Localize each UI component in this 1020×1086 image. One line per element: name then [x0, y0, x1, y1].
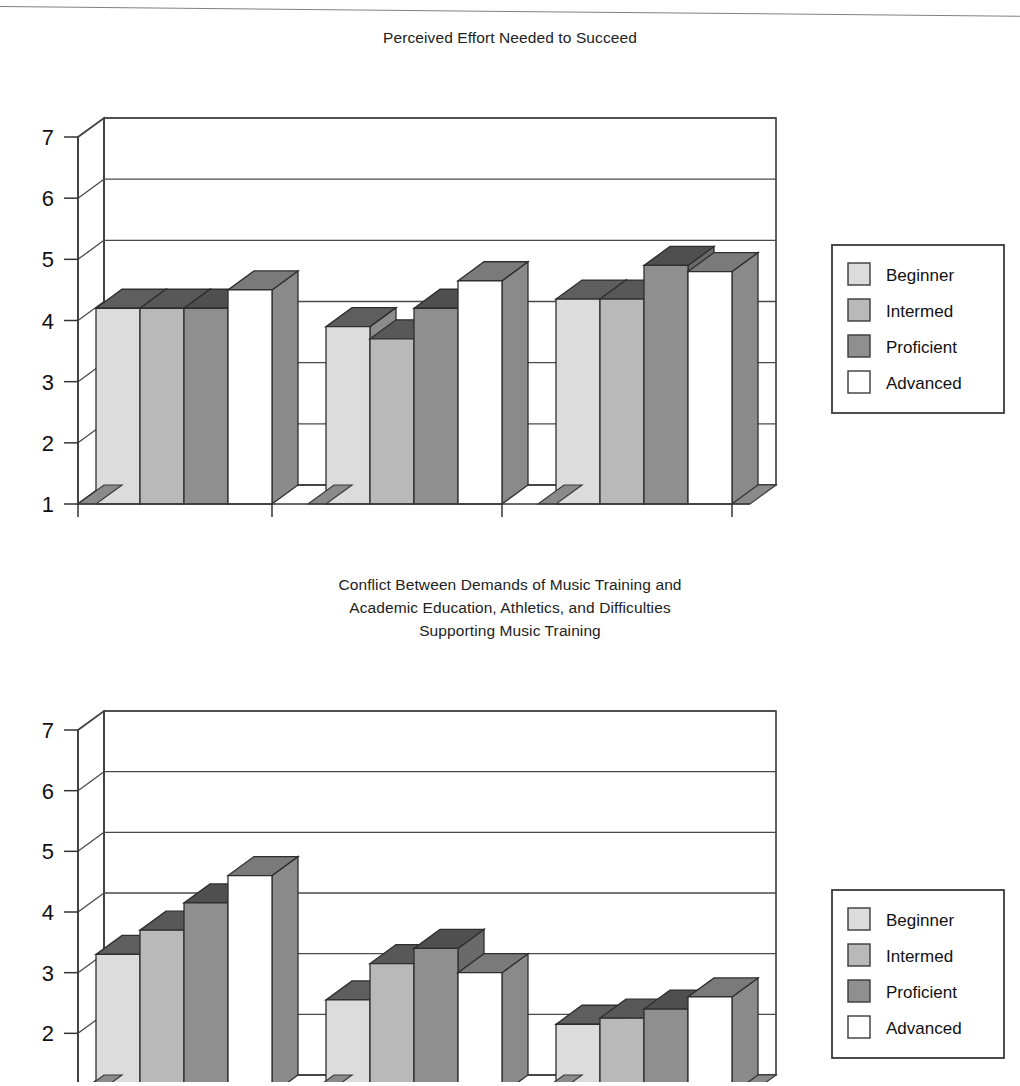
- y-axis-label: 6: [42, 779, 54, 804]
- bar-front: [458, 281, 502, 504]
- bar-side: [502, 954, 528, 1082]
- legend-swatch-advanced: [848, 1016, 870, 1038]
- legend-label-proficient: Proficient: [886, 983, 957, 1002]
- bar-side: [272, 857, 298, 1082]
- legend-label-intermed: Intermed: [886, 947, 953, 966]
- chart-conflict-title-line-3: Supporting Music Training: [0, 619, 1020, 642]
- y-axis-label: 4: [42, 309, 54, 334]
- chart-effort-svg: 1234567MusicAcademicsAthleticsBeginnerIn…: [0, 49, 1020, 519]
- chart-effort-plot: 1234567MusicAcademicsAthleticsBeginnerIn…: [0, 49, 1020, 519]
- bar-front: [414, 308, 458, 504]
- bar-front: [458, 973, 502, 1082]
- gridline-depth: [78, 118, 104, 137]
- bar-front: [556, 1024, 600, 1082]
- y-axis-label: 7: [42, 718, 54, 743]
- y-axis-label: 3: [42, 961, 54, 986]
- legend-label-beginner: Beginner: [886, 266, 954, 285]
- chart-conflict-block: Conflict Between Demands of Music Traini…: [0, 573, 1020, 1082]
- bar-side: [502, 262, 528, 504]
- gridline-depth: [78, 240, 104, 259]
- chart-conflict-title: Conflict Between Demands of Music Traini…: [0, 573, 1020, 642]
- bar-front: [184, 903, 228, 1082]
- bar-side: [732, 253, 758, 504]
- gridline-depth: [78, 772, 104, 791]
- bar-front: [184, 308, 228, 504]
- legend-swatch-intermed: [848, 299, 870, 321]
- legend-swatch-beginner: [848, 263, 870, 285]
- bar-front: [688, 272, 732, 504]
- bar-front: [370, 964, 414, 1082]
- bar-front: [688, 997, 732, 1082]
- legend-label-advanced: Advanced: [886, 1019, 962, 1038]
- legend-label-intermed: Intermed: [886, 302, 953, 321]
- y-axis-label: 1: [42, 492, 54, 517]
- bar-front: [228, 290, 272, 504]
- chart-conflict-title-line-2: Academic Education, Athletics, and Diffi…: [0, 596, 1020, 619]
- legend-swatch-intermed: [848, 944, 870, 966]
- bar-front: [96, 308, 140, 504]
- legend-swatch-proficient: [848, 335, 870, 357]
- y-axis-label: 7: [42, 125, 54, 150]
- bar-front: [96, 954, 140, 1082]
- bar-front: [140, 930, 184, 1082]
- bar-front: [644, 1009, 688, 1082]
- bar-front: [414, 948, 458, 1082]
- chart-effort-title-line-1: Perceived Effort Needed to Succeed: [0, 26, 1020, 49]
- gridline-depth: [78, 179, 104, 198]
- y-axis-label: 3: [42, 370, 54, 395]
- y-axis-label: 2: [42, 431, 54, 456]
- bar-front: [370, 339, 414, 504]
- chart-conflict-svg: 1234567MVS. ACMVS. ATDifficultyBeginnerI…: [0, 642, 1020, 1082]
- scan-artifact-line: [0, 6, 1020, 17]
- y-axis-label: 5: [42, 839, 54, 864]
- bar-front: [600, 299, 644, 504]
- y-axis-label: 4: [42, 900, 54, 925]
- gridline-depth: [78, 832, 104, 851]
- bar-front: [140, 308, 184, 504]
- legend-label-proficient: Proficient: [886, 338, 957, 357]
- legend-swatch-proficient: [848, 980, 870, 1002]
- bar-side: [272, 271, 298, 504]
- chart-conflict-plot: 1234567MVS. ACMVS. ATDifficultyBeginnerI…: [0, 642, 1020, 1082]
- bar-front: [326, 327, 370, 504]
- legend-swatch-advanced: [848, 371, 870, 393]
- legend-label-advanced: Advanced: [886, 374, 962, 393]
- gridline-depth: [78, 893, 104, 912]
- chart-effort-title: Perceived Effort Needed to Succeed: [0, 26, 1020, 49]
- legend-label-beginner: Beginner: [886, 911, 954, 930]
- y-axis-label: 5: [42, 247, 54, 272]
- y-axis-label: 2: [42, 1021, 54, 1046]
- y-axis-label: 6: [42, 186, 54, 211]
- bar-front: [644, 265, 688, 504]
- bar-front: [228, 876, 272, 1082]
- legend-swatch-beginner: [848, 908, 870, 930]
- chart-effort-block: Perceived Effort Needed to Succeed 12345…: [0, 26, 1020, 519]
- bar-front: [600, 1018, 644, 1082]
- gridline-depth: [78, 711, 104, 730]
- chart-conflict-title-line-1: Conflict Between Demands of Music Traini…: [0, 573, 1020, 596]
- bar-front: [326, 1000, 370, 1082]
- bar-front: [556, 299, 600, 504]
